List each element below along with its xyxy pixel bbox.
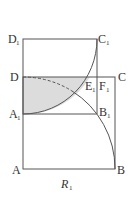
svg-text:1: 1 — [107, 112, 111, 120]
label-c1: C1 — [98, 32, 110, 47]
geometry-figure: D1 C1 D E1 F1 C A1 B1 A B R1 — [0, 0, 131, 203]
svg-text:1: 1 — [69, 184, 73, 192]
svg-text:R: R — [60, 177, 69, 191]
label-a1: A1 — [9, 107, 21, 122]
svg-text:1: 1 — [17, 114, 21, 122]
svg-text:1: 1 — [106, 86, 110, 94]
arc-e1-b — [72, 91, 115, 169]
svg-text:1: 1 — [106, 39, 110, 47]
svg-text:B: B — [117, 163, 125, 177]
svg-text:A: A — [12, 163, 21, 177]
label-d: D — [10, 70, 19, 84]
caption-r1: R1 — [60, 177, 73, 192]
label-a: A — [12, 163, 21, 177]
label-f1: F1 — [99, 79, 110, 94]
label-d1: D1 — [8, 32, 20, 47]
svg-text:F: F — [99, 79, 106, 93]
label-b: B — [117, 163, 125, 177]
svg-text:D: D — [10, 70, 19, 84]
svg-text:C: C — [118, 70, 126, 84]
svg-text:B: B — [99, 105, 107, 119]
label-b1: B1 — [99, 105, 111, 120]
svg-text:1: 1 — [16, 39, 20, 47]
svg-text:1: 1 — [92, 86, 96, 94]
label-e1: E1 — [85, 79, 96, 94]
label-c: C — [118, 70, 126, 84]
svg-text:C: C — [98, 32, 106, 46]
shaded-region — [23, 77, 90, 114]
